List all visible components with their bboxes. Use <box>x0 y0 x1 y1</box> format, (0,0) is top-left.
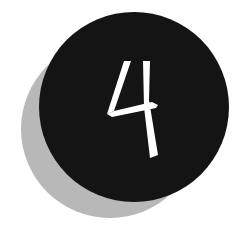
badge-graphic: 4 <box>0 0 232 235</box>
number-four-badge: 4 <box>0 0 232 235</box>
